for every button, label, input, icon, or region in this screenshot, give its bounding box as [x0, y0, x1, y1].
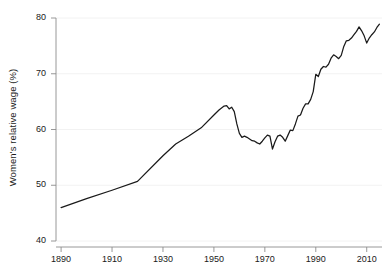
y-tick-label-70: 70	[20, 68, 46, 78]
gridlines	[56, 18, 382, 241]
x-tick-label-2010: 2010	[347, 254, 385, 264]
line-chart-plot	[0, 0, 385, 275]
x-tick-label-1910: 1910	[92, 254, 132, 264]
y-tick-label-40: 40	[20, 235, 46, 245]
x-tick-label-1890: 1890	[41, 254, 81, 264]
y-tick-label-80: 80	[20, 12, 46, 22]
axis-lines	[56, 18, 382, 247]
chart-container: Women's relative wage (%) 4050607080 189…	[0, 0, 385, 275]
x-tick-label-1950: 1950	[194, 254, 234, 264]
y-axis-ticks	[51, 18, 56, 241]
x-tick-label-1990: 1990	[296, 254, 336, 264]
x-tick-label-1970: 1970	[245, 254, 285, 264]
x-tick-label-1930: 1930	[143, 254, 183, 264]
y-tick-label-60: 60	[20, 124, 46, 134]
data-series-line	[61, 24, 379, 207]
x-axis-ticks	[61, 247, 367, 252]
y-tick-label-50: 50	[20, 179, 46, 189]
